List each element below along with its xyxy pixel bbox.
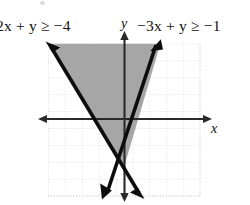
- inequality-label-left: 2x + y ≥ −4: [0, 17, 71, 35]
- inequality-label-right: −3x + y ≥ −1: [137, 17, 221, 35]
- y-axis-label: y: [121, 16, 127, 32]
- inequality-graph-figure: 2x + y ≥ −4 −3x + y ≥ −1 y x: [0, 0, 250, 205]
- x-axis-label: x: [211, 121, 217, 137]
